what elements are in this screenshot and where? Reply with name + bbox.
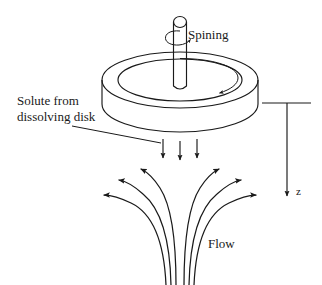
disk-rotation-arrow (180, 59, 238, 94)
flow-label: Flow (208, 236, 235, 251)
spinning-label: Spining (188, 27, 229, 42)
solute-label-line-2: dissolving disk (17, 109, 96, 124)
streamline-left-middle (119, 180, 171, 285)
shaft-top-cap (174, 17, 187, 28)
flow-streamlines (104, 169, 256, 285)
streamline-right-middle (189, 180, 241, 285)
solute-release-arrows (163, 139, 197, 160)
disk-side-wall (102, 80, 258, 132)
solute-label-line-1: Solute from (17, 93, 79, 108)
rotating-disk-diagram: Spining Solute from dissolving disk Flow… (0, 0, 322, 285)
z-axis-label: z (296, 185, 301, 197)
dissolving-disk (102, 52, 258, 132)
spindle-shaft (174, 17, 187, 90)
figure-container: Spining Solute from dissolving disk Flow… (0, 0, 322, 285)
streamline-left-outer (104, 195, 166, 285)
shaft-body (174, 22, 187, 89)
z-axis (262, 103, 311, 196)
disk-top-inner-ellipse (118, 59, 242, 101)
solute-leader-line (72, 126, 161, 143)
disk-top-outer-ellipse (102, 52, 258, 108)
